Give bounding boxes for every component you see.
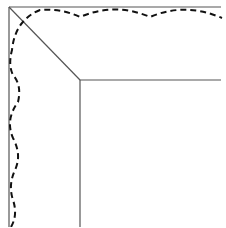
dashed-scalloped-edge bbox=[10, 10, 222, 228]
diagram-drawing bbox=[0, 0, 226, 227]
corner-diagram bbox=[0, 0, 226, 227]
mitre-diagonal-line bbox=[9, 7, 80, 80]
